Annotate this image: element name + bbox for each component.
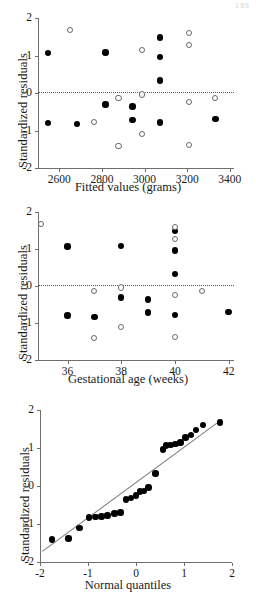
y-axis-title-3: Standardized residuals: [18, 447, 33, 562]
data-point-filled: [225, 309, 231, 315]
data-point-filled: [217, 419, 223, 425]
y-tick: [37, 486, 40, 487]
data-point-filled: [45, 50, 51, 56]
x-tick: [40, 563, 41, 566]
y-tick: [35, 93, 38, 94]
data-point-filled: [104, 512, 110, 518]
data-point-filled: [200, 422, 206, 428]
data-point-open: [172, 292, 178, 298]
x-tick: [59, 169, 60, 172]
y-tick: [35, 18, 38, 19]
chart-panel-residuals-vs-fitted: -2-101226002800300032003400 Standardized…: [0, 0, 256, 204]
x-tick: [229, 361, 230, 364]
zero-reference-line: [38, 285, 234, 286]
data-point-open: [199, 288, 205, 294]
y-tick-label: 2: [8, 205, 32, 217]
data-point-filled: [64, 243, 70, 249]
x-tick: [175, 361, 176, 364]
y-axis-title-1: Standardized residuals: [16, 53, 31, 168]
chart-panel-normal-qq: -2-1012-2-1012 Standardized residuals No…: [0, 392, 256, 612]
y-tick: [37, 448, 40, 449]
data-point-open: [186, 99, 192, 105]
y-tick: [35, 323, 38, 324]
data-point-open: [186, 42, 192, 48]
data-point-filled: [172, 271, 178, 277]
data-point-filled: [212, 116, 218, 122]
x-axis-title-1: Fitted values (grams): [0, 180, 256, 195]
data-point-filled: [157, 54, 163, 60]
data-point-filled: [118, 294, 124, 300]
data-point-filled: [129, 103, 135, 109]
plot-area-1: -2-101226002800300032003400: [38, 18, 234, 168]
x-axis-title-3: Normal quantiles: [0, 578, 256, 593]
data-point-filled: [193, 427, 199, 433]
data-point-filled: [145, 309, 151, 315]
y-tick: [35, 131, 38, 132]
y-tick: [37, 410, 40, 411]
data-point-filled: [45, 120, 51, 126]
data-point-open: [38, 221, 44, 227]
data-point-filled: [49, 536, 55, 542]
x-tick: [88, 563, 89, 566]
x-tick: [68, 361, 69, 364]
data-point-filled: [172, 247, 178, 253]
plot-area-3: -2-1012-2-1012: [40, 410, 232, 562]
data-point-filled: [91, 314, 97, 320]
data-point-open: [91, 335, 97, 341]
y-tick: [37, 524, 40, 525]
data-point-open: [91, 119, 97, 125]
data-point-open: [115, 95, 121, 101]
data-point-open: [139, 47, 145, 53]
data-point-filled: [74, 121, 80, 127]
chart-panel-residuals-vs-gestational-age: -2-101236384042 Standardized residuals G…: [0, 196, 256, 396]
x-tick: [187, 169, 188, 172]
y-tick: [35, 168, 38, 169]
x-tick: [232, 563, 233, 566]
y-axis-title-2: Standardized residuals: [16, 245, 31, 360]
x-tick: [121, 361, 122, 364]
data-point-filled: [172, 312, 178, 318]
x-tick: [136, 563, 137, 566]
data-point-open: [115, 143, 121, 149]
data-point-open: [118, 324, 124, 330]
data-point-filled: [129, 117, 135, 123]
data-point-filled: [86, 514, 92, 520]
data-point-open: [172, 236, 178, 242]
x-tick: [184, 563, 185, 566]
data-point-filled: [102, 49, 108, 55]
data-point-filled: [157, 34, 163, 40]
data-point-open: [186, 142, 192, 148]
y-tick-label: 2: [8, 11, 32, 23]
data-point-filled: [157, 77, 163, 83]
x-tick: [145, 169, 146, 172]
qq-reference-line: [42, 418, 223, 551]
data-point-open: [186, 30, 192, 36]
data-point-filled: [152, 470, 158, 476]
data-point-filled: [76, 525, 82, 531]
data-point-filled: [145, 296, 151, 302]
data-point-filled: [102, 101, 108, 107]
data-point-filled: [118, 243, 124, 249]
data-point-open: [139, 131, 145, 137]
y-tick: [35, 212, 38, 213]
y-axis-line: [38, 212, 39, 360]
data-point-filled: [65, 535, 71, 541]
x-axis-line: [38, 168, 234, 169]
data-point-filled: [145, 484, 151, 490]
data-point-open: [172, 224, 178, 230]
y-tick: [35, 286, 38, 287]
x-tick: [230, 169, 231, 172]
data-point-filled: [64, 312, 70, 318]
data-point-open: [91, 288, 97, 294]
data-point-open: [139, 91, 145, 97]
plot-area-2: -2-101236384042: [38, 212, 234, 360]
x-axis-title-2: Gestational age (weeks): [0, 372, 256, 387]
x-tick: [102, 169, 103, 172]
y-axis-line: [38, 18, 39, 168]
zero-reference-line: [38, 92, 234, 93]
y-tick-label: 2: [10, 403, 34, 415]
data-point-open: [67, 27, 73, 33]
data-point-open: [172, 334, 178, 340]
data-point-filled: [157, 119, 163, 125]
y-tick: [35, 249, 38, 250]
